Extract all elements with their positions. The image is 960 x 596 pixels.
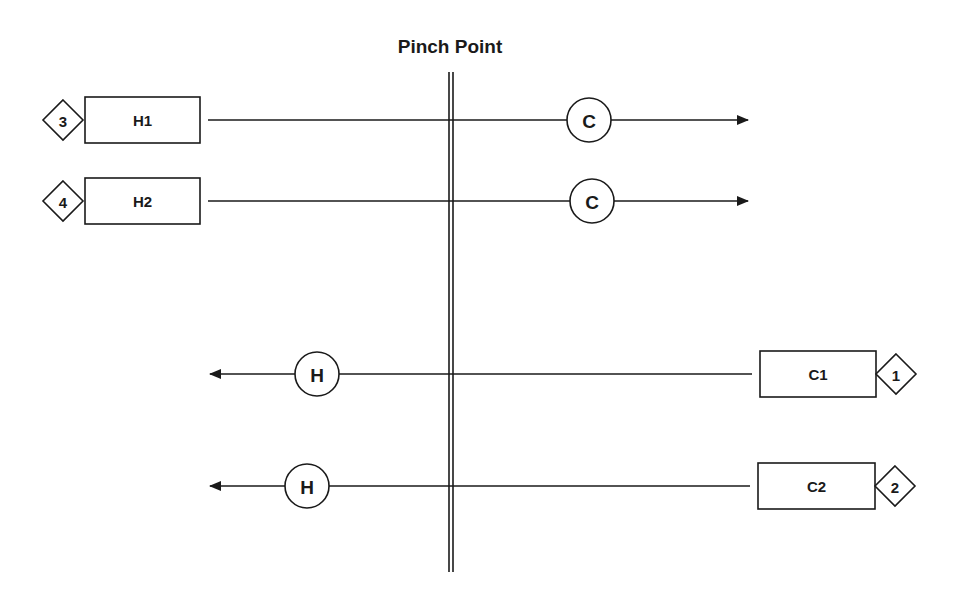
pinch-line: [449, 72, 453, 572]
pinch-diagram: Pinch Point H13CH24CC11HC22H: [0, 0, 960, 596]
stream-number-diamond: 4: [43, 181, 83, 221]
stream-label: C1: [808, 366, 827, 383]
stream-label: C2: [807, 478, 826, 495]
stream-number-diamond: 3: [43, 100, 83, 140]
stream-label: H1: [133, 112, 152, 129]
heater-icon[interactable]: H: [295, 352, 339, 396]
diagram-title: Pinch Point: [398, 36, 503, 57]
cooler-icon[interactable]: C: [570, 179, 614, 223]
stream-label: H2: [133, 193, 152, 210]
stream-c2[interactable]: C22H: [210, 463, 915, 509]
stream-box[interactable]: C2: [758, 463, 875, 509]
stream-number: 1: [892, 367, 900, 384]
stream-h2[interactable]: H24C: [43, 178, 748, 224]
stream-box[interactable]: H2: [85, 178, 200, 224]
stream-number-diamond: 1: [876, 354, 916, 394]
stream-number: 4: [59, 194, 68, 211]
exchanger-label: H: [310, 365, 324, 386]
heater-icon[interactable]: H: [285, 464, 329, 508]
cooler-icon[interactable]: C: [567, 98, 611, 142]
stream-c1[interactable]: C11H: [210, 351, 916, 397]
stream-number-diamond: 2: [875, 466, 915, 506]
exchanger-label: C: [582, 111, 596, 132]
exchanger-label: H: [300, 477, 314, 498]
stream-box[interactable]: H1: [85, 97, 200, 143]
stream-h1[interactable]: H13C: [43, 97, 748, 143]
exchanger-label: C: [585, 192, 599, 213]
stream-box[interactable]: C1: [760, 351, 876, 397]
stream-number: 2: [891, 479, 899, 496]
stream-number: 3: [59, 113, 67, 130]
